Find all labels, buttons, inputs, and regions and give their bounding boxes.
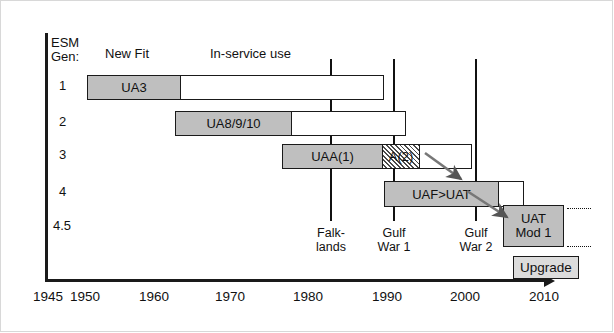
continuation-dots-top	[567, 208, 591, 209]
x-tick-1980: 1980	[286, 289, 330, 304]
chart-frame: ESM Gen: New Fit In-service use 1 2 3 4 …	[0, 0, 613, 332]
bar-gen-2-new-fit[interactable]: UA8/9/10	[175, 111, 292, 136]
event-label-gulf-war-2: Gulf War 2	[446, 227, 506, 254]
bar-gen-3-in-service[interactable]	[419, 144, 472, 169]
x-tick-1960: 1960	[132, 289, 176, 304]
bar-gen-4-new-fit[interactable]: UAF>UAT	[384, 181, 499, 207]
x-tick-2010: 2010	[522, 289, 566, 304]
bar-gen-4-5-uat-mod-1[interactable]: UAT Mod 1	[503, 205, 564, 247]
row-label-gen-2: 2	[59, 115, 66, 129]
x-tick-1970: 1970	[208, 289, 252, 304]
bar-gen-1-new-fit[interactable]: UA3	[87, 75, 181, 100]
bar-label-gen-3: UAA(1)	[311, 149, 354, 164]
row-header-gen: Gen:	[51, 50, 79, 65]
row-label-gen-3: 3	[59, 148, 66, 162]
event-label-gulf-war-1: Gulf War 1	[364, 227, 424, 254]
x-axis-line	[45, 279, 545, 282]
bar-label-gen-1: UA3	[121, 80, 146, 95]
bar-label-gen-3-sub: A(2)	[388, 149, 415, 164]
bar-gen-4-in-service[interactable]	[498, 181, 524, 207]
bar-label-gen-2: UA8/9/10	[206, 116, 260, 131]
x-tick-1990: 1990	[365, 289, 409, 304]
timeline-chart: ESM Gen: New Fit In-service use 1 2 3 4 …	[1, 1, 614, 333]
bar-gen-2-in-service[interactable]	[291, 111, 406, 136]
event-label-falklands: Falk- lands	[301, 227, 361, 254]
row-label-gen-4-5: 4.5	[53, 219, 71, 233]
bar-gen-1-in-service[interactable]	[180, 75, 384, 100]
column-header-new-fit: New Fit	[105, 47, 149, 61]
row-label-gen-4: 4	[59, 185, 66, 199]
row-label-gen-1: 1	[59, 79, 66, 93]
column-header-in-service: In-service use	[210, 47, 291, 61]
x-tick-1950: 1950	[63, 289, 107, 304]
bar-gen-3-hatched[interactable]: A(2)	[382, 144, 420, 169]
bar-gen-3-new-fit[interactable]: UAA(1)	[282, 144, 383, 169]
bar-label-gen-4: UAF>UAT	[412, 187, 471, 202]
legend-upgrade-box[interactable]: Upgrade	[513, 256, 579, 279]
y-axis-line	[45, 33, 48, 281]
x-tick-2000: 2000	[443, 289, 487, 304]
continuation-dots-bottom	[567, 246, 591, 247]
